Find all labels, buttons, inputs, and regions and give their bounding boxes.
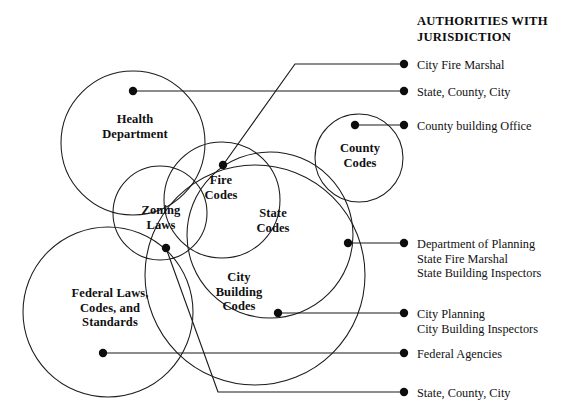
legend-dot-planning_fire_building: [400, 239, 408, 247]
venn-diagram-root: AUTHORITIES WITH JURISDICTION Health Dep…: [0, 0, 578, 418]
circles-group: [23, 71, 403, 397]
legend-dot-state_county_city_top: [400, 87, 408, 95]
circle-label-health_department: Health Department: [83, 112, 187, 141]
anchor-dot-city_fire_marshal: [219, 161, 227, 169]
legend-dot-state_county_city_bottom: [400, 388, 408, 396]
legend-dot-city_planning_inspectors: [400, 309, 408, 317]
legend-title: AUTHORITIES WITH JURISDICTION: [417, 14, 577, 45]
anchor-dot-state_county_city_bottom: [162, 244, 170, 252]
anchor-dot-planning_fire_building: [344, 239, 352, 247]
circle-label-fire_codes: Fire Codes: [184, 173, 258, 202]
circle-label-city_building_codes: City Building Codes: [196, 270, 282, 314]
legend-dot-federal_agencies: [400, 349, 408, 357]
legend-dot-county_building_office: [400, 121, 408, 129]
legend-entry-state_county_city_bottom: State, County, City: [417, 386, 510, 401]
legend-dot-city_fire_marshal: [400, 60, 408, 68]
legend-entry-planning_fire_building: Department of Planning State Fire Marsha…: [417, 237, 541, 281]
circle-label-county_codes: County Codes: [322, 141, 398, 170]
legend-entry-state_county_city_top: State, County, City: [417, 85, 510, 100]
legend-entry-federal_agencies: Federal Agencies: [417, 347, 502, 362]
legend-entry-city_planning_inspectors: City Planning City Building Inspectors: [417, 307, 538, 336]
anchor-dot-state_county_city_top: [129, 87, 137, 95]
legend-entry-county_building_office: County building Office: [417, 119, 532, 134]
circle-label-zoning_laws: Zoning Laws: [122, 203, 200, 232]
legend-entry-city_fire_marshal: City Fire Marshal: [417, 58, 504, 73]
circle-label-state_codes: State Codes: [240, 206, 306, 235]
circle-label-federal_laws: Federal Laws, Codes, and Standards: [48, 286, 172, 330]
anchor-dot-federal_agencies: [99, 349, 107, 357]
anchor-dot-county_building_office: [351, 121, 359, 129]
